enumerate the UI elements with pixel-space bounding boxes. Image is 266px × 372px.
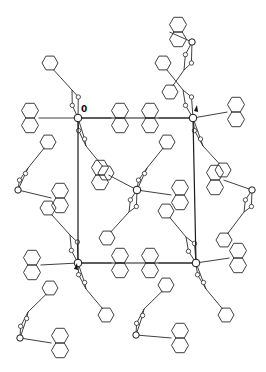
oxygen-atom <box>142 171 146 175</box>
oxygen-atom <box>183 103 187 107</box>
oxygen-atom <box>183 52 187 56</box>
naphthalene-ring <box>22 103 39 118</box>
phenyl-ring <box>99 231 115 245</box>
naphthalene-ring <box>22 118 39 133</box>
phenyl-bond <box>28 148 44 168</box>
oxygen-atom <box>76 128 80 132</box>
naphthalene-ring <box>228 97 245 112</box>
metal-atom <box>249 187 255 193</box>
phenyl-ring <box>158 204 174 218</box>
metal-naphthyl-bond <box>20 338 52 343</box>
phenyl-ring <box>98 308 114 322</box>
phenyl-bond <box>227 212 244 234</box>
oxygen-atom <box>18 324 22 328</box>
metal-center <box>74 259 82 267</box>
naphthalene-ring <box>170 17 187 32</box>
metal-atom <box>17 335 23 341</box>
metal-atom <box>189 39 195 45</box>
naphthalene-ring <box>24 265 41 280</box>
naphthalene-ring <box>170 32 187 47</box>
naphthalene-ring <box>142 103 159 118</box>
naphthalene-ring <box>142 248 159 263</box>
naphthalene-ring <box>172 338 189 353</box>
oxygen-atom <box>82 280 86 284</box>
naphthalene-ring <box>172 180 189 195</box>
phenyl-bond <box>28 294 46 312</box>
molecule <box>24 201 82 280</box>
oxygen-atom <box>189 61 193 65</box>
metal-center <box>74 114 82 122</box>
phenyl-bond <box>86 289 103 309</box>
phenyl-ring <box>162 85 178 99</box>
molecule <box>15 135 69 213</box>
phenyl-ring <box>218 308 234 322</box>
oxygen-atom <box>134 204 138 208</box>
molecule <box>75 103 129 180</box>
phenyl-ring <box>158 278 174 292</box>
oxygen-atom <box>76 95 80 99</box>
naphthalene-ring <box>172 323 189 338</box>
naphthalene-ring <box>142 118 159 133</box>
metal-naphthyl-bond <box>224 180 253 190</box>
metal-atom <box>15 187 21 193</box>
phenyl-ring <box>42 56 58 70</box>
metal-naphthyl-bond <box>18 190 52 198</box>
top-right-mark <box>194 105 198 112</box>
molecule <box>92 160 141 245</box>
naphthalene-ring <box>112 103 129 118</box>
crystal-packing-diagram: 0 <box>0 0 266 372</box>
metal-center <box>192 259 200 267</box>
oxygen-atom <box>189 95 193 99</box>
phenyl-bond <box>170 217 186 237</box>
oxygen-atom <box>82 137 86 141</box>
phenyl-bond <box>144 291 162 309</box>
phenyl-bond <box>147 148 163 168</box>
naphthalene-ring <box>52 343 69 358</box>
naphthalene-ring <box>52 328 69 343</box>
phenyl-bond <box>53 70 72 90</box>
molecule <box>134 135 189 210</box>
molecule <box>162 17 195 99</box>
origin-label: 0 <box>81 104 87 114</box>
molecule <box>22 56 82 133</box>
oxygen-atom <box>17 178 21 182</box>
naphthalene-ring <box>207 165 224 180</box>
oxygen-atom <box>24 316 28 320</box>
phenyl-bond <box>203 146 219 164</box>
naphthalene-ring <box>230 258 247 273</box>
phenyl-ring <box>40 135 56 149</box>
phenyl-ring <box>159 135 175 149</box>
oxygen-atom <box>69 248 73 252</box>
molecule <box>142 204 200 278</box>
metal-naphthyl-bond <box>196 258 230 263</box>
naphthalene-ring <box>24 250 41 265</box>
molecule <box>142 56 197 133</box>
oxygen-atom <box>134 321 138 325</box>
phenyl-ring <box>216 233 232 247</box>
oxygen-atom <box>136 178 140 182</box>
oxygen-atom <box>186 249 190 253</box>
oxygen-atom <box>198 137 202 141</box>
diagram-svg: 0 <box>0 0 266 372</box>
phenyl-ring <box>40 201 56 215</box>
naphthalene-ring <box>172 195 189 210</box>
oxygen-atom <box>195 273 199 277</box>
oxygen-atom <box>128 198 132 202</box>
metal-naphthyl-bond <box>193 112 228 118</box>
phenyl-bond <box>206 289 222 309</box>
molecule <box>133 278 189 353</box>
oxygen-atom <box>243 198 247 202</box>
oxygen-atom <box>70 103 74 107</box>
naphthalene-ring <box>228 112 245 127</box>
metal-atom <box>133 332 139 338</box>
naphthalene-ring <box>52 183 69 198</box>
oxygen-atom <box>140 313 144 317</box>
molecule <box>207 165 256 247</box>
naphthalene-ring <box>112 263 129 278</box>
oxygen-atom <box>249 204 253 208</box>
metal-centers-layer <box>74 114 200 267</box>
metal-center <box>133 186 141 194</box>
metal-naphthyl-bond <box>137 190 172 195</box>
naphthalene-ring <box>112 248 129 263</box>
naphthalene-ring <box>112 118 129 133</box>
